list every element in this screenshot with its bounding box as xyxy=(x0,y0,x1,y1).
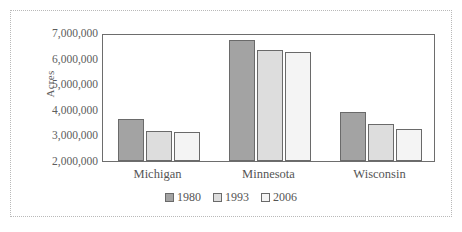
bar xyxy=(257,50,283,161)
legend-swatch-icon xyxy=(213,193,222,202)
legend-label: 1993 xyxy=(225,191,249,203)
legend-swatch-icon xyxy=(165,193,174,202)
plot-area xyxy=(103,35,434,161)
legend-item: 1980 xyxy=(165,191,201,203)
legend-label: 1980 xyxy=(177,191,201,203)
bar xyxy=(229,40,255,161)
bar-group xyxy=(103,35,214,161)
y-axis-tick-label: 7,000,000 xyxy=(36,28,98,40)
y-axis-tick-label: 2,000,000 xyxy=(36,156,98,168)
bar-group xyxy=(325,35,436,161)
y-axis-tick-label: 5,000,000 xyxy=(36,79,98,91)
x-axis-category-label: Minnesota xyxy=(213,166,324,182)
legend-item: 1993 xyxy=(213,191,249,203)
legend-item: 2006 xyxy=(261,191,297,203)
x-axis-category-label: Wisconsin xyxy=(324,166,435,182)
legend-label: 2006 xyxy=(273,191,297,203)
chart-figure: Acres 7,000,0006,000,0005,000,0004,000,0… xyxy=(0,0,462,232)
y-axis-tick-label: 6,000,000 xyxy=(36,54,98,66)
bar xyxy=(174,132,200,161)
legend-swatch-icon xyxy=(261,193,270,202)
y-axis-tick-label: 3,000,000 xyxy=(36,130,98,142)
bar xyxy=(396,129,422,161)
chart-legend: 198019932006 xyxy=(0,191,462,203)
bar xyxy=(118,119,144,161)
y-axis-tick-label: 4,000,000 xyxy=(36,105,98,117)
plot-frame xyxy=(102,34,435,162)
bar xyxy=(285,52,311,161)
bar xyxy=(368,124,394,161)
x-axis-category-labels: MichiganMinnesotaWisconsin xyxy=(102,166,435,184)
bar xyxy=(146,131,172,161)
bar-group xyxy=(214,35,325,161)
x-axis-category-label: Michigan xyxy=(102,166,213,182)
y-axis-tick-labels: 7,000,0006,000,0005,000,0004,000,0003,00… xyxy=(36,34,98,162)
bar xyxy=(340,112,366,161)
